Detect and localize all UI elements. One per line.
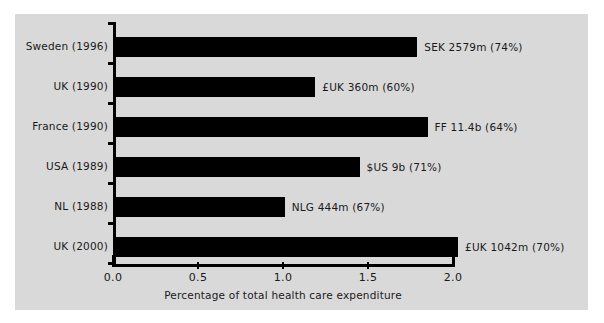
- bar-value-label: £UK 1042m (70%): [465, 240, 564, 254]
- bar: [113, 37, 417, 57]
- y-axis-category-label-text: USA (1989): [0, 160, 108, 172]
- y-axis-tick: [108, 62, 114, 65]
- y-axis-tick: [108, 102, 114, 105]
- y-axis-category-label: France (1990): [0, 120, 108, 134]
- x-axis-tick-label: 0.0: [88, 271, 138, 284]
- bar-value-label: £UK 360m (60%): [322, 80, 415, 94]
- x-axis-tick-label: 2.0: [428, 271, 478, 284]
- y-axis-category-label: UK (1990): [0, 80, 108, 94]
- bar-value-label: FF 11.4b (64%): [435, 120, 518, 134]
- y-axis-category-label: UK (2000): [0, 240, 108, 254]
- y-axis-category-label: NL (1988): [0, 200, 108, 214]
- x-axis-tick-label: 1.5: [343, 271, 393, 284]
- y-axis-category-label-text: UK (2000): [0, 240, 108, 252]
- x-axis-tick: [197, 262, 199, 269]
- x-axis-tick-label: 1.0: [258, 271, 308, 284]
- bar-value-label: $US 9b (71%): [367, 160, 442, 174]
- y-axis-category-label-text: UK (1990): [0, 80, 108, 92]
- y-axis-tick: [108, 182, 114, 185]
- y-axis-category-label: USA (1989): [0, 160, 108, 174]
- x-axis-tick: [282, 262, 284, 269]
- bar: [113, 117, 428, 137]
- bar-chart-figure: 0.00.51.01.52.0Sweden (1996)SEK 2579m (7…: [0, 0, 604, 323]
- x-axis-title: Percentage of total health care expendit…: [113, 289, 453, 301]
- bar: [113, 77, 315, 97]
- y-axis-category-label-text: France (1990): [0, 120, 108, 132]
- y-axis-category-label: Sweden (1996): [0, 40, 108, 54]
- bar: [113, 197, 285, 217]
- y-axis-category-label-text: NL (1988): [0, 200, 108, 212]
- bar-value-label: SEK 2579m (74%): [424, 40, 522, 54]
- x-axis-tick-label: 0.5: [173, 271, 223, 284]
- y-axis-category-label-text: Sweden (1996): [0, 40, 108, 52]
- bar: [113, 237, 458, 257]
- x-axis-tick: [367, 262, 369, 269]
- y-axis-tick: [108, 262, 114, 265]
- y-axis-tick: [108, 222, 114, 225]
- y-axis-tick: [108, 142, 114, 145]
- bar: [113, 157, 360, 177]
- y-axis-tick: [108, 22, 114, 25]
- bar-value-label: NLG 444m (67%): [292, 200, 385, 214]
